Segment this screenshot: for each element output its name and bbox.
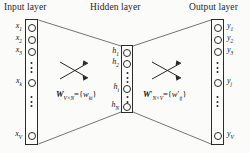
fan-line-output-bottom: [133, 112, 211, 144]
hidden-unit-hN: [123, 103, 131, 111]
hidden-unit-hi: [123, 85, 131, 93]
output-unit-y3: [214, 48, 222, 56]
output-ellipsis-lower: [216, 96, 219, 107]
input-unit-x1: [28, 24, 36, 32]
output-layer-title: Output layer: [189, 2, 238, 12]
output-ellipsis-upper: [216, 62, 219, 73]
fan-line-input-bottom: [39, 112, 122, 144]
input-layer-column: [25, 19, 38, 145]
hidden-unit-h2: [123, 60, 131, 68]
input-label-xV: xV: [2, 130, 22, 140]
output-unit-yj: [214, 79, 222, 87]
cross-arrows-hidden-output: [152, 60, 181, 81]
input-label-x3: x3: [2, 46, 22, 56]
hidden-layer-title: Hidden layer: [90, 2, 141, 12]
cross-arrows-input-hidden: [60, 60, 88, 81]
output-label-yV: yV: [227, 130, 234, 140]
hidden-label-h1: h1: [103, 47, 119, 57]
input-ellipsis-upper: [30, 62, 33, 73]
input-label-x1: x1: [2, 22, 22, 32]
weight-matrix-symbol-w: W: [56, 89, 64, 99]
hidden-label-hN: hN: [101, 101, 119, 111]
weight-label-input-hidden: WV×N={wki}: [56, 90, 97, 101]
output-label-yj: yj: [227, 77, 232, 87]
weight-matrix-symbol-w-prime: W: [143, 89, 151, 99]
input-label-x2: x2: [2, 34, 22, 44]
weight-matrix-dims-nv: N×V: [152, 95, 163, 101]
weight-matrix-dims-vn: V×N: [64, 95, 75, 101]
output-label-y1: y1: [227, 22, 233, 32]
output-unit-y1: [214, 24, 222, 32]
fan-line-output-top: [133, 20, 211, 46]
weight-element-sub-ki: ki: [89, 95, 93, 101]
hidden-layer-column: [121, 45, 133, 113]
input-label-xk: xk: [2, 77, 22, 87]
weight-label-hidden-output: W′N×V={w′ij}: [143, 90, 186, 101]
hidden-unit-h1: [123, 49, 131, 57]
input-ellipsis-lower: [30, 96, 33, 107]
input-unit-x2: [28, 36, 36, 44]
input-unit-xk: [28, 79, 36, 87]
weight-element-sub-ij: ij: [179, 95, 182, 101]
hidden-label-hi: hi: [103, 83, 119, 93]
input-layer-title: Input layer: [4, 2, 47, 12]
neural-network-figure: Input layer Hidden layer Output layer x1…: [0, 0, 250, 153]
hidden-ellipsis-upper: [126, 72, 129, 83]
hidden-label-h2: h2: [103, 58, 119, 68]
output-label-y3: y3: [227, 46, 233, 56]
output-unit-y2: [214, 36, 222, 44]
output-label-y2: y2: [227, 34, 233, 44]
weight-equals-sign-2: =: [163, 89, 168, 99]
input-unit-xV: [28, 132, 36, 140]
output-layer-column: [211, 19, 224, 145]
input-unit-x3: [28, 48, 36, 56]
output-unit-yV: [214, 132, 222, 140]
fan-line-input-top: [39, 20, 122, 46]
weight-equals-sign: =: [74, 89, 79, 99]
